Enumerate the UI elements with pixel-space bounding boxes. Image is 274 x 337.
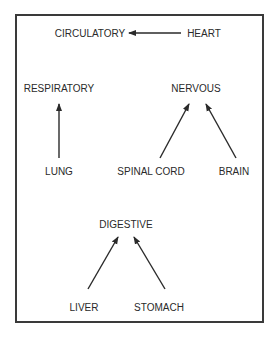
arrow-liver-to-digestive [88,237,118,289]
node-brain: BRAIN [219,166,250,178]
node-digestive: DIGESTIVE [99,219,152,231]
node-lung: LUNG [45,166,73,178]
arrow-spinal-cord-to-nervous [160,104,189,158]
node-respiratory: RESPIRATORY [24,83,95,95]
arrow-brain-to-nervous [206,104,236,158]
arrow-stomach-to-digestive [134,237,165,289]
node-heart: HEART [187,28,221,40]
node-spinal-cord: SPINAL CORD [117,166,184,178]
node-nervous: NERVOUS [171,83,220,95]
node-stomach: STOMACH [134,302,184,314]
node-circulatory: CIRCULATORY [55,28,126,40]
node-liver: LIVER [70,302,99,314]
